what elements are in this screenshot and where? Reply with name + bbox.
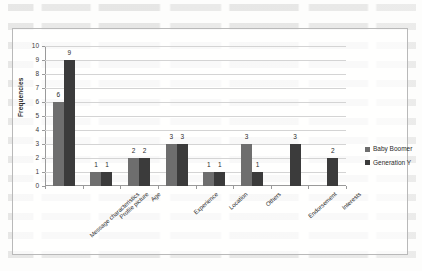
y-tick-label: 10 [32,43,39,50]
x-category-label: Others [265,191,282,208]
bar-baby-boomer: 3 [241,144,252,186]
bar-value-label: 1 [94,162,98,169]
bar-value-label: 2 [143,148,147,155]
bar-group: 3 [271,46,309,186]
bar-group: 33 [158,46,196,186]
y-tick-label: 3 [35,141,39,148]
x-tick-mark [346,186,347,189]
bar-value-label: 3 [169,134,173,141]
x-tick-mark [308,186,309,189]
bar-baby-boomer: 1 [90,172,101,186]
bar-value-label: 2 [331,148,335,155]
bar-group: 11 [83,46,121,186]
bar-value-label: 1 [105,162,109,169]
bar-value-label: 3 [245,134,249,141]
x-tick-mark [83,186,84,189]
bar-generation-y: 2 [327,158,338,186]
bar-generation-y: 1 [101,172,112,186]
legend-swatch-icon [365,147,370,152]
bar-baby-boomer: 3 [166,144,177,186]
y-tick-label: 8 [35,71,39,78]
bar-generation-y: 9 [64,60,75,186]
y-tick-label: 0 [35,183,39,190]
bar-value-label: 1 [256,162,260,169]
bar-baby-boomer: 2 [128,158,139,186]
x-tick-mark [196,186,197,189]
bar-generation-y: 2 [139,158,150,186]
chart-legend: Baby BoomerGeneration Y [365,146,412,173]
bar-group: 2 [308,46,346,186]
x-tick-mark [158,186,159,189]
y-tick-label: 4 [35,127,39,134]
y-tick-label: 5 [35,113,39,120]
ghost-text-line [8,4,416,11]
bar-group: 69 [45,46,83,186]
y-tick-label: 9 [35,57,39,64]
bar-value-label: 1 [207,162,211,169]
bar-generation-y: 3 [290,144,301,186]
bar-generation-y: 1 [252,172,263,186]
bar-group: 11 [196,46,234,186]
bar-value-label: 6 [57,92,61,99]
y-axis-label: Frequencies [17,78,24,117]
chart-frame: Frequencies 01234567891069112233113132 B… [12,28,408,255]
x-category-label: Endorsement [307,191,338,219]
y-tick-label: 2 [35,155,39,162]
legend-label: Generation Y [373,160,411,167]
bar-value-label: 1 [218,162,222,169]
legend-item: Baby Boomer [365,146,412,153]
x-category-label: Age [150,191,162,203]
x-category-label: Location [228,191,249,211]
x-tick-mark [120,186,121,189]
x-tick-mark [271,186,272,189]
legend-item: Generation Y [365,160,412,167]
bar-baby-boomer: 1 [203,172,214,186]
bar-value-label: 3 [293,134,297,141]
x-category-label: Message characteristics [88,191,140,239]
bar-value-label: 2 [132,148,136,155]
bar-group: 31 [233,46,271,186]
x-category-label: Experience [192,191,218,216]
legend-swatch-icon [365,160,370,165]
y-tick-label: 7 [35,85,39,92]
bar-value-label: 9 [68,50,72,57]
bar-value-label: 3 [180,134,184,141]
bar-baby-boomer: 6 [53,102,64,186]
x-tick-mark [233,186,234,189]
bar-generation-y: 3 [177,144,188,186]
bar-generation-y: 1 [214,172,225,186]
x-tick-mark [45,186,46,189]
plot-area: 01234567891069112233113132 [45,46,346,186]
y-tick-label: 6 [35,99,39,106]
y-tick-label: 1 [35,169,39,176]
legend-label: Baby Boomer [373,146,412,153]
bar-group: 22 [120,46,158,186]
x-category-label: Interests [341,191,362,211]
